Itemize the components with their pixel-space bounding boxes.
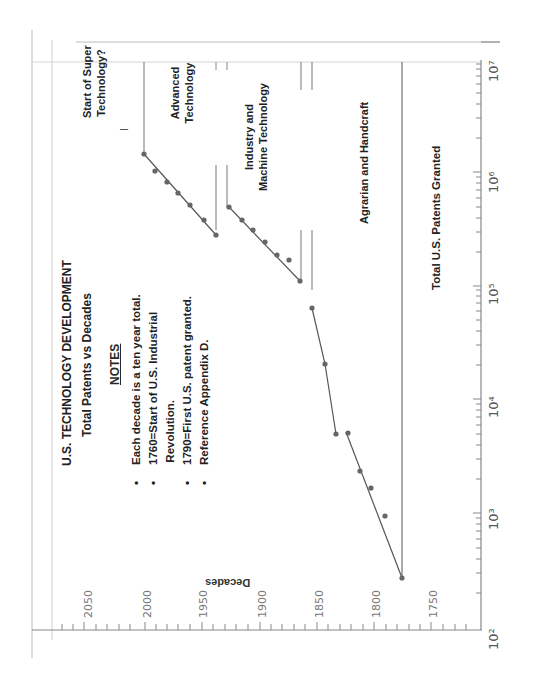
patents-axis-label: Total U.S. Patents Granted	[430, 146, 442, 290]
decade-tick-1750: 1750	[427, 590, 440, 618]
decades-axis-label: Decades	[205, 577, 250, 589]
chart-title: U.S. TECHNOLOGY DEVELOPMENT	[60, 260, 74, 466]
decade-tick-2000: 2000	[141, 590, 154, 618]
series-agrarian-line-1	[346, 432, 402, 578]
chart-subtitle: Total Patents vs Decades	[80, 293, 94, 437]
series-agrarian-markers	[309, 305, 404, 580]
decade-tick-1950: 1950	[197, 590, 210, 618]
note-item: • Reference Appendix D.	[196, 294, 213, 485]
region-label-advanced: Advanced Technology	[168, 58, 196, 128]
notes-heading: NOTES	[108, 344, 122, 385]
region-label-industry: Industry and Machine Technology	[242, 82, 270, 192]
decade-tick-1850: 1850	[313, 590, 326, 618]
super-marker-glyph: I	[119, 128, 130, 131]
patents-tick-1e2: 10²	[486, 628, 501, 650]
patents-tick-1e5: 10⁵	[486, 283, 501, 305]
decade-tick-2050: 2050	[82, 590, 95, 618]
patents-tick-1e4: 10⁴	[486, 396, 501, 418]
note-item: • 1760=Start of U.S. Industrial	[145, 294, 162, 485]
region-label-super: Start of Super Technology?	[80, 48, 108, 118]
decade-tick-1900: 1900	[256, 590, 269, 618]
note-item: • 1790=First U.S. patent granted.	[179, 294, 196, 485]
notes-list: • Each decade is a ten year total. • 176…	[128, 294, 213, 485]
region-label-agrarian: Agrarian and Handcraft	[357, 102, 371, 224]
decade-tick-1800: 1800	[370, 590, 383, 618]
patents-axis-ticks	[473, 64, 481, 593]
decades-axis-ticks	[62, 622, 466, 630]
patents-tick-1e7: 10⁷	[486, 60, 501, 82]
series-agrarian-line-2	[312, 308, 336, 434]
note-item-cont: Revolution.	[162, 294, 179, 485]
note-item: • Each decade is a ten year total.	[128, 294, 145, 485]
patents-tick-1e6: 10⁶	[486, 171, 501, 193]
patents-tick-1e3: 10³	[486, 508, 501, 530]
